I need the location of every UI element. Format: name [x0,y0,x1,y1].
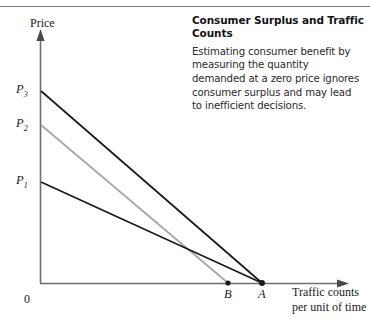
price-label-p1-subscript: 1 [24,181,28,190]
x-axis-label: Traffic counts per unit of time [292,285,366,315]
quantity-label-a: A [258,287,266,302]
caption-title: Consumer Surplus and Traffic Counts [192,14,364,41]
x-axis-label-line1: Traffic counts [292,285,359,299]
figure-page: Price 0 Traffic counts per unit of time … [0,0,370,327]
price-label-p2: P2 [16,116,28,133]
origin-label: 0 [24,292,30,307]
price-label-p2-base: P [16,116,24,130]
caption-block: Consumer Surplus and Traffic Counts Esti… [192,14,364,113]
quantity-label-b: B [224,287,232,302]
price-label-p1-base: P [16,173,24,187]
demand-line-p1 [41,182,262,283]
price-label-p3: P3 [16,82,28,99]
x-axis-label-line2: per unit of time [292,300,366,314]
demand-line-p2 [41,125,228,283]
point-marker-b [225,280,230,285]
point-marker-a [259,280,265,286]
price-label-p3-subscript: 3 [24,90,28,99]
price-label-p3-base: P [16,82,24,96]
demand-line-p3 [41,91,262,283]
price-label-p2-subscript: 2 [24,124,28,133]
y-axis-label: Price [30,16,55,31]
price-label-p1: P1 [16,173,28,190]
caption-body: Estimating consumer benefit by measuring… [192,45,364,113]
